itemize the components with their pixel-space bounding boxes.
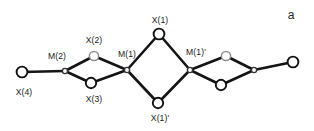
node-label-x2: X(2) xyxy=(86,35,103,45)
graph-edge xyxy=(158,70,190,103)
node-label-x3: X(3) xyxy=(86,94,103,104)
graph-node-x2p xyxy=(221,51,230,60)
graph-edge xyxy=(127,70,158,103)
node-label-m2: M(2) xyxy=(48,51,66,61)
nodes-group xyxy=(17,29,299,109)
panel-letter: a xyxy=(288,8,295,22)
graph-node-m1 xyxy=(124,67,129,72)
graph-node-m1p xyxy=(187,67,192,72)
graph-node-x3p xyxy=(216,80,226,90)
graph-node-m2 xyxy=(62,68,67,73)
graph-node-x3 xyxy=(86,78,96,88)
graph-node-m2p xyxy=(251,67,256,72)
graph-edge xyxy=(22,71,65,72)
figure-panel: X(4)M(2)X(2)X(3)M(1)X(1)X(1)'M(1)' a xyxy=(0,0,314,131)
graph-node-x4 xyxy=(17,67,28,78)
node-label-x1: X(1) xyxy=(152,15,169,25)
graph-node-x1p xyxy=(153,98,163,108)
graph-node-x4p xyxy=(288,57,299,68)
graph-edge xyxy=(190,56,226,70)
node-label-x4: X(4) xyxy=(16,87,33,97)
node-label-m1p: M(1)' xyxy=(186,47,206,57)
node-label-x1p: X(1)' xyxy=(151,113,169,123)
graph-node-x1 xyxy=(154,29,165,40)
node-label-m1: M(1) xyxy=(118,49,136,59)
graph-node-x2 xyxy=(89,51,98,60)
